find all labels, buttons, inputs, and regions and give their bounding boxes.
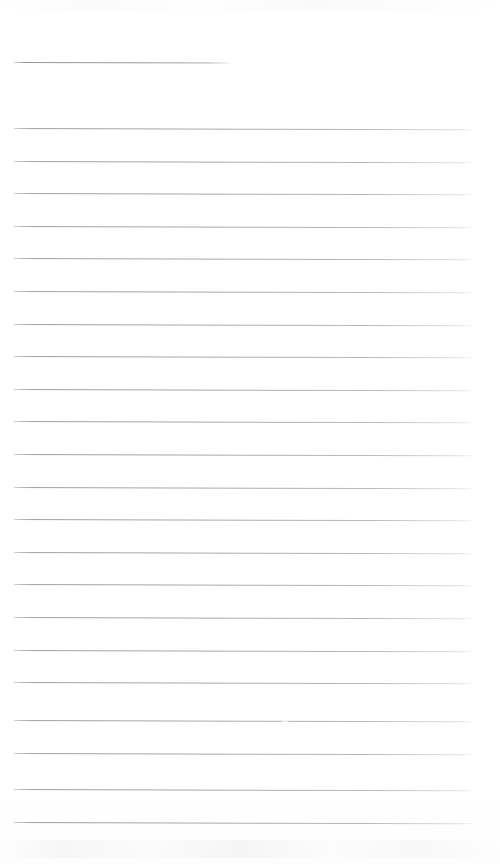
body-text[interactable] bbox=[14, 112, 473, 824]
title-text[interactable] bbox=[14, 44, 230, 60]
title-rule bbox=[14, 62, 230, 64]
note-page bbox=[0, 0, 500, 864]
